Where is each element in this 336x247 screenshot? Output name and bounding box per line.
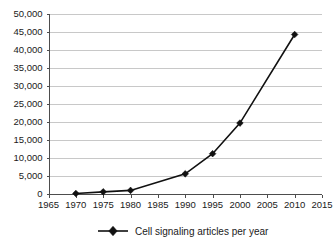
- x-axis-tick-label: 1985: [147, 199, 168, 210]
- x-axis-tick-label: 1980: [120, 199, 141, 210]
- x-axis-tick-label: 2010: [284, 199, 305, 210]
- x-axis-tick-label: 1975: [93, 199, 114, 210]
- y-axis-tick-label: 20,000: [13, 116, 42, 127]
- x-axis-tick-label: 1970: [65, 199, 86, 210]
- x-axis-tick-labels: 1965197019751980198519901995200020052010…: [38, 199, 333, 210]
- data-point-marker: [127, 187, 134, 194]
- gridline-group: [49, 15, 323, 177]
- legend-diamond-marker-icon: [109, 226, 117, 235]
- y-axis-tick-label: 45,000: [13, 26, 42, 37]
- y-axis-tick-label: 0: [37, 188, 42, 199]
- y-axis-tick-label: 15,000: [13, 134, 42, 145]
- y-axis-tick-label: 30,000: [13, 80, 42, 91]
- y-axis-tick-label: 35,000: [13, 62, 42, 73]
- y-axis-tick-label: 40,000: [13, 44, 42, 55]
- legend-entry-label: Cell signaling articles per year: [135, 226, 269, 237]
- data-point-marker: [73, 190, 80, 197]
- data-series-group: [76, 35, 295, 194]
- y-axis-tick-label: 10,000: [13, 152, 42, 163]
- chart-legend: Cell signaling articles per year: [98, 226, 269, 237]
- x-axis-tick-label: 1990: [175, 199, 196, 210]
- x-axis-tick-label: 2000: [229, 199, 250, 210]
- line-chart: 05,00010,00015,00020,00025,00030,00035,0…: [0, 0, 336, 247]
- x-axis-tick-label: 2015: [311, 199, 332, 210]
- y-axis-tick-labels: 05,00010,00015,00020,00025,00030,00035,0…: [13, 8, 42, 199]
- data-series-line: [76, 35, 295, 194]
- x-axis-tick-label: 2005: [257, 199, 278, 210]
- x-axis-tick-label: 1995: [202, 199, 223, 210]
- x-axis-tick-label: 1965: [38, 199, 59, 210]
- chart-figure: 05,00010,00015,00020,00025,00030,00035,0…: [0, 0, 336, 247]
- data-point-markers: [73, 31, 298, 197]
- y-axis-tick-label: 5,000: [19, 170, 43, 181]
- y-axis-tick-label: 25,000: [13, 98, 42, 109]
- y-axis-tick-label: 50,000: [13, 8, 42, 19]
